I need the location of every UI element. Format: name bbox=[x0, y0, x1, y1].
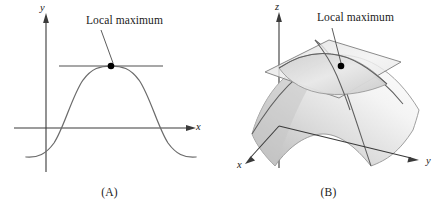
panel-b-graph bbox=[219, 0, 438, 204]
local-maximum-annotation-b: Local maximum bbox=[317, 11, 394, 23]
local-maximum-point-a bbox=[108, 63, 115, 70]
panel-a: Local maximum y x (A) bbox=[0, 0, 219, 204]
x-axis-label-a: x bbox=[196, 121, 201, 132]
caption-b: (B) bbox=[219, 186, 438, 198]
y-axis-label-b: y bbox=[426, 155, 431, 166]
panel-a-graph bbox=[0, 0, 219, 204]
local-maximum-annotation-a: Local maximum bbox=[86, 14, 163, 26]
caption-a: (A) bbox=[0, 186, 219, 198]
y-axis-a bbox=[43, 13, 49, 172]
x-axis-a bbox=[14, 125, 196, 131]
local-maximum-point-b bbox=[338, 63, 345, 70]
panel-b: Local maximum z x y (B) bbox=[219, 0, 438, 204]
x-axis-label-b: x bbox=[237, 159, 242, 170]
curve-a bbox=[26, 66, 196, 157]
figure-root: Local maximum y x (A) bbox=[0, 0, 438, 204]
y-axis-label-a: y bbox=[40, 2, 45, 13]
z-axis-label-b: z bbox=[275, 1, 279, 12]
leader-line-a bbox=[101, 30, 113, 63]
